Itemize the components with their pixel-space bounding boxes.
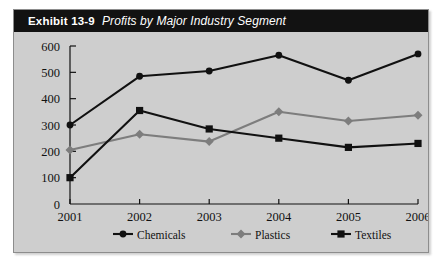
series-textiles bbox=[66, 107, 421, 181]
series-chemicals bbox=[67, 50, 422, 128]
series-line-chemicals bbox=[70, 54, 418, 125]
y-axis-tick-labels: 0100200300400500600 bbox=[41, 40, 60, 212]
legend-marker-textiles bbox=[337, 230, 344, 237]
exhibit-caption: Profits by Major Industry Segment bbox=[102, 14, 286, 28]
x-axis-tick-label: 2003 bbox=[197, 210, 222, 224]
x-axis-tick-label: 2005 bbox=[336, 210, 361, 224]
series-line-plastics bbox=[70, 112, 418, 150]
legend-label-textiles: Textiles bbox=[355, 229, 392, 241]
chart-legend: ChemicalsPlasticsTextiles bbox=[113, 229, 392, 241]
data-point-chemicals-2002 bbox=[136, 73, 143, 80]
data-point-plastics-2005 bbox=[344, 117, 353, 126]
data-point-textiles-2003 bbox=[206, 125, 213, 132]
legend-label-chemicals: Chemicals bbox=[137, 229, 186, 241]
x-axis-tick-marks bbox=[70, 199, 418, 204]
legend-item-textiles: Textiles bbox=[331, 229, 392, 241]
legend-label-plastics: Plastics bbox=[255, 229, 291, 241]
x-axis-tick-label: 2001 bbox=[58, 210, 83, 224]
x-axis-tick-label: 2006 bbox=[406, 210, 429, 224]
data-point-plastics-2003 bbox=[205, 137, 214, 146]
y-axis-tick-label: 200 bbox=[41, 145, 60, 159]
exhibit-panel: Exhibit 13-9 Profits by Major Industry S… bbox=[13, 9, 429, 253]
legend-item-plastics: Plastics bbox=[231, 229, 291, 241]
data-point-textiles-2002 bbox=[136, 107, 143, 114]
data-point-plastics-2004 bbox=[274, 107, 283, 116]
data-point-chemicals-2003 bbox=[206, 68, 213, 75]
data-point-plastics-2006 bbox=[414, 111, 423, 120]
data-point-chemicals-2001 bbox=[67, 122, 74, 129]
data-point-textiles-2006 bbox=[414, 140, 421, 147]
exhibit-number: Exhibit 13-9 bbox=[28, 15, 95, 27]
x-axis-tick-label: 2002 bbox=[127, 210, 152, 224]
data-point-textiles-2001 bbox=[66, 174, 73, 181]
y-axis-tick-marks bbox=[70, 46, 76, 178]
x-axis-tick-label: 2004 bbox=[266, 210, 292, 224]
y-axis-tick-label: 100 bbox=[41, 171, 60, 185]
data-series-layer bbox=[66, 50, 423, 181]
data-point-plastics-2002 bbox=[135, 130, 144, 139]
line-chart: 0100200300400500600 20012002200320042005… bbox=[14, 32, 428, 252]
legend-item-chemicals: Chemicals bbox=[113, 229, 186, 241]
y-axis-tick-label: 500 bbox=[41, 66, 60, 80]
legend-marker-chemicals bbox=[120, 231, 127, 238]
data-point-chemicals-2004 bbox=[275, 52, 282, 59]
y-axis-tick-label: 600 bbox=[41, 40, 60, 54]
exhibit-title-bar: Exhibit 13-9 Profits by Major Industry S… bbox=[14, 10, 428, 32]
y-axis-tick-label: 300 bbox=[41, 119, 60, 133]
y-axis-tick-label: 400 bbox=[41, 92, 60, 106]
chart-plot-area: 0100200300400500600 20012002200320042005… bbox=[14, 32, 428, 252]
data-point-textiles-2005 bbox=[345, 144, 352, 151]
data-point-plastics-2001 bbox=[66, 146, 75, 155]
data-point-textiles-2004 bbox=[275, 135, 282, 142]
data-point-chemicals-2006 bbox=[415, 50, 422, 57]
x-axis-tick-labels: 200120022003200420052006 bbox=[58, 210, 429, 224]
legend-marker-plastics bbox=[237, 230, 246, 239]
data-point-chemicals-2005 bbox=[345, 77, 352, 84]
